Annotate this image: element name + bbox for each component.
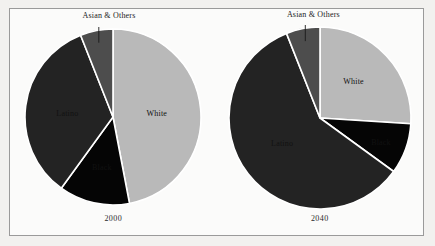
slice-label-white: White [343, 77, 364, 86]
pie-svg-2000: WhiteBlackLatino [23, 27, 203, 207]
pie-svg-2040: WhiteBlackLatino [227, 25, 413, 211]
year-label-2000: 2000 [10, 214, 217, 223]
slice-label-latino: Latino [57, 109, 79, 118]
pie-chart-2040: WhiteBlackLatino [227, 25, 413, 211]
pie-slice-white [320, 27, 411, 124]
pie-panel-2000: Asian & Others WhiteBlackLatino 2000 [10, 9, 217, 235]
slice-label-black: Black [92, 163, 112, 172]
callout-label-asian-others-2040: Asian & Others [287, 10, 340, 19]
callout-label-asian-others-2000: Asian & Others [83, 11, 136, 20]
pie-panel-2040: Asian & Others WhiteBlackLatino 2040 [217, 9, 424, 235]
pie-chart-2000: WhiteBlackLatino [23, 27, 203, 207]
slice-label-white: White [147, 109, 168, 118]
slice-label-black: Black [371, 138, 391, 147]
slice-label-latino: Latino [271, 139, 293, 148]
year-label-2040: 2040 [217, 214, 424, 223]
figure-frame: Asian & Others WhiteBlackLatino 2000 Asi… [9, 8, 424, 236]
